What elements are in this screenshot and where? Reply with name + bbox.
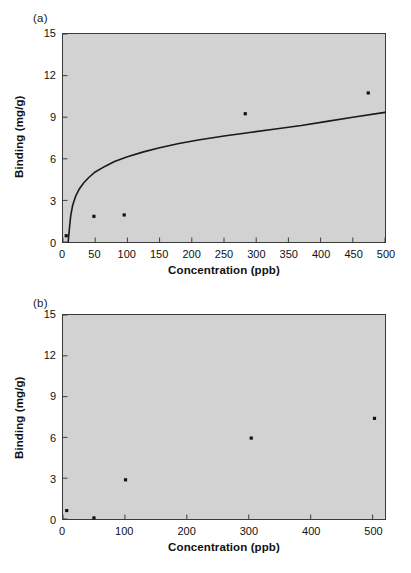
data-point-marker [367,91,370,94]
y-tick-label: 6 [26,432,56,444]
data-point-marker [123,213,126,216]
data-point-marker [373,417,376,420]
panel-b-plot-area [62,314,386,520]
panel-a-label: (a) [33,12,48,24]
x-tick-label: 200 [167,525,207,537]
y-tick-label: 15 [26,308,56,320]
y-tick-label: 3 [26,473,56,485]
data-point-marker [124,478,127,481]
data-point-marker [65,234,68,237]
panel-a: (a) Binding (mg/g) Concentration (ppb) 0… [0,0,411,285]
fitted-curve [68,112,385,242]
x-tick-label: 100 [104,525,144,537]
data-point-marker [244,112,247,115]
y-tick-label: 12 [26,69,56,81]
x-tick-label: 500 [366,248,406,260]
y-tick-label: 6 [26,153,56,165]
x-tick-label: 400 [291,525,331,537]
panel-a-y-axis-title: Binding (mg/g) [13,95,25,178]
data-point-marker [92,516,95,519]
panel-a-plot-area [62,33,386,243]
panel-b-data-layer [63,315,385,519]
y-tick-label: 9 [26,390,56,402]
y-tick-label: 15 [26,27,56,39]
panel-b-x-axis-title: Concentration (ppb) [62,541,386,553]
panel-a-x-axis-title: Concentration (ppb) [62,264,386,276]
x-tick-label: 500 [354,525,394,537]
data-point-marker [92,215,95,218]
x-tick-label: 0 [42,525,82,537]
figure-root: (a) Binding (mg/g) Concentration (ppb) 0… [0,0,411,573]
data-point-marker [250,436,253,439]
panel-b: (b) Binding (mg/g) Concentration (ppb) 0… [0,285,411,573]
y-tick-label: 12 [26,349,56,361]
panel-a-data-layer [63,34,385,242]
data-point-marker [65,509,68,512]
y-tick-label: 9 [26,111,56,123]
y-tick-label: 3 [26,195,56,207]
panel-b-y-axis-title: Binding (mg/g) [13,376,25,459]
x-tick-label: 300 [229,525,269,537]
